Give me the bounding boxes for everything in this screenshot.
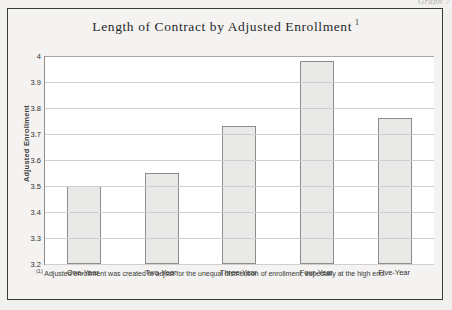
y-axis-tick: 3.8: [31, 104, 41, 113]
bar-chart: Adjusted Enrollment 43.93.83.73.63.53.43…: [8, 41, 444, 271]
y-axis-tick: 3.9: [31, 78, 41, 87]
bar: [67, 186, 101, 264]
y-axis-tick: 3.5: [31, 182, 41, 191]
chart-title: Length of Contract by Adjusted Enrollmen…: [8, 18, 444, 35]
gridline: [45, 264, 434, 265]
y-axis-tick: 4: [37, 52, 41, 61]
gridline: [45, 56, 434, 57]
gridline: [45, 212, 434, 213]
y-axis-tick: 3.3: [31, 234, 41, 243]
scanned-page: Graph 7 Length of Contract by Adjusted E…: [0, 0, 452, 310]
gridline: [45, 82, 434, 83]
y-axis-tick: 3.6: [31, 156, 41, 165]
figure-frame: Length of Contract by Adjusted Enrollmen…: [7, 8, 443, 300]
page-corner-label: Graph 7: [418, 0, 450, 5]
gridline: [45, 238, 434, 239]
y-axis-label: Adjusted Enrollment: [22, 89, 31, 199]
footnote-text: Adjusted enrollment was created to adjus…: [44, 270, 386, 277]
bar: [222, 126, 256, 264]
gridline: [45, 134, 434, 135]
gridline: [45, 108, 434, 109]
y-axis-tick: 3.4: [31, 208, 41, 217]
bar: [300, 61, 334, 264]
plot-area: 43.93.83.73.63.53.43.33.2: [44, 56, 434, 265]
gridline: [45, 186, 434, 187]
y-axis-tick: 3.7: [31, 130, 41, 139]
footnote-marker: (1): [36, 268, 43, 274]
chart-title-text: Length of Contract by Adjusted Enrollmen…: [92, 19, 352, 34]
figure-footnote: (1) Adjusted enrollment was created to a…: [36, 267, 428, 280]
gridline: [45, 160, 434, 161]
title-footnote-marker: 1: [355, 18, 360, 27]
bar: [378, 118, 412, 264]
